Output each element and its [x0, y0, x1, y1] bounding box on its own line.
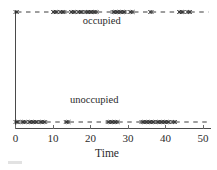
occupancy-time-figure: 01020304050 occupiedunoccupied Time — [0, 0, 217, 170]
x-axis-title: Time — [95, 147, 119, 159]
x-tick-label-10: 10 — [48, 132, 60, 144]
data-series-group — [14, 10, 209, 124]
x-tick-label-0: 0 — [13, 132, 19, 144]
unoccupied-label: unoccupied — [70, 94, 119, 105]
caption-artifact — [8, 161, 22, 164]
x-axis-tick-labels: 01020304050 — [13, 132, 209, 144]
x-axis-ticks — [16, 125, 204, 129]
x-tick-label-30: 30 — [123, 132, 135, 144]
series-unoccupied — [14, 120, 209, 124]
x-tick-label-40: 40 — [160, 132, 172, 144]
x-tick-label-20: 20 — [85, 132, 97, 144]
plot-axes — [15, 11, 211, 129]
plot-canvas: 01020304050 occupiedunoccupied Time — [0, 0, 217, 170]
series-occupied — [14, 10, 209, 14]
state-annotations: occupiedunoccupied — [70, 15, 121, 105]
x-tick-label-50: 50 — [198, 132, 210, 144]
occupied-label: occupied — [83, 15, 122, 26]
